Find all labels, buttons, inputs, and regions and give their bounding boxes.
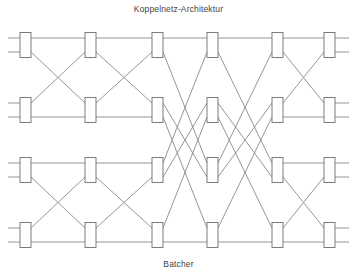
comparator-box-s4-1 [207, 33, 218, 58]
comparator-box-s6-4 [324, 223, 335, 248]
comparator-box-s3-1 [152, 33, 163, 58]
figure-caption: Batcher [0, 259, 357, 269]
comparator-box-s6-1 [324, 33, 335, 58]
comparator-box-s4-2 [207, 98, 218, 123]
comparator-box-s5-1 [272, 33, 283, 58]
comparator-box-s3-2 [152, 98, 163, 123]
comparator-box-s1-4 [20, 223, 31, 248]
comparator-box-s5-4 [272, 223, 283, 248]
comparator-box-s3-3 [152, 158, 163, 183]
permutation-layer [31, 52, 324, 228]
wire-layer [8, 38, 349, 242]
koppelnetz-figure: Koppelnetz-Architektur Batcher [0, 0, 357, 278]
comparator-box-s2-2 [85, 98, 96, 123]
comparator-box-s5-2 [272, 98, 283, 123]
comparator-box-s4-3 [207, 158, 218, 183]
comparator-box-s6-2 [324, 98, 335, 123]
comparator-box-s1-3 [20, 158, 31, 183]
comparator-box-s1-1 [20, 33, 31, 58]
comparator-box-s1-2 [20, 98, 31, 123]
comparator-box-s2-1 [85, 33, 96, 58]
comparator-box-s2-4 [85, 223, 96, 248]
comparator-box-s2-3 [85, 158, 96, 183]
comparator-layer [20, 33, 335, 248]
comparator-box-s3-4 [152, 223, 163, 248]
comparator-box-s4-4 [207, 223, 218, 248]
comparator-box-s6-3 [324, 158, 335, 183]
comparator-box-s5-3 [272, 158, 283, 183]
sorting-network-diagram [0, 0, 357, 278]
